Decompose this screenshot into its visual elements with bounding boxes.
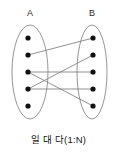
set-member-dot — [25, 86, 30, 91]
set-member-dot — [90, 35, 95, 40]
set-member-dot — [25, 69, 30, 74]
set-a-label: A — [27, 8, 33, 18]
mapping-diagram: A B — [0, 0, 117, 152]
set-mapping-figure: A B — [0, 0, 117, 132]
set-member-dot — [90, 86, 95, 91]
set-member-dot — [25, 52, 30, 57]
set-member-dot — [90, 52, 95, 57]
diagram-caption: 일 대 다(1:N) — [31, 134, 86, 145]
set-b-label: B — [89, 8, 95, 18]
set-member-dot — [25, 35, 30, 40]
set-member-dot — [25, 103, 30, 108]
set-b-nodes-group — [90, 35, 95, 108]
mapping-edge — [28, 38, 93, 55]
set-b-group: B — [77, 8, 107, 119]
set-member-dot — [90, 103, 95, 108]
set-a-nodes-group — [25, 35, 30, 108]
set-a-group: A — [12, 8, 48, 119]
caption-bar: 일 대 다(1:N) — [0, 129, 117, 147]
mapping-edges-group — [28, 38, 93, 106]
set-member-dot — [90, 69, 95, 74]
